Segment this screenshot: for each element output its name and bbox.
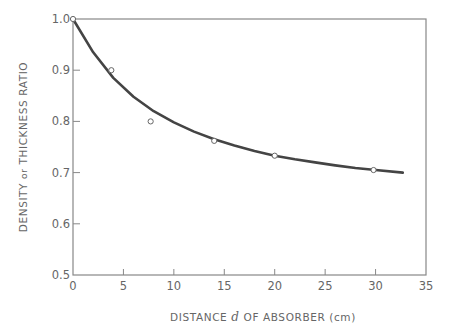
y-tick-label: 1.0	[52, 12, 70, 26]
x-tick-label: 35	[419, 279, 434, 293]
x-tick-label: 0	[69, 279, 76, 293]
chart: 05101520253035 0.50.60.70.80.91.0 DISTAN…	[0, 0, 449, 327]
x-tick-label: 5	[120, 279, 127, 293]
data-point-marker	[109, 68, 114, 73]
x-tick-label: 25	[318, 279, 333, 293]
fit-line	[73, 19, 403, 173]
y-axis-title: DENSITY or THICKNESS RATIO	[17, 62, 29, 232]
data-point-marker	[272, 153, 277, 158]
x-tick-label: 10	[167, 279, 182, 293]
data-points	[70, 16, 376, 172]
x-tick-label: 30	[368, 279, 383, 293]
plot-frame	[73, 19, 426, 275]
y-tick-label: 0.9	[52, 63, 70, 77]
x-tick-label: 15	[217, 279, 232, 293]
y-tick-label: 0.8	[52, 114, 70, 128]
y-tick-label: 0.5	[52, 268, 70, 282]
x-axis-ticks: 05101520253035	[69, 269, 433, 293]
y-tick-label: 0.6	[52, 217, 70, 231]
data-point-marker	[371, 167, 376, 172]
x-tick-label: 20	[267, 279, 282, 293]
x-axis-title: DISTANCE d OF ABSORBER (cm)	[170, 310, 356, 324]
data-point-marker	[212, 138, 217, 143]
data-point-marker	[148, 119, 153, 124]
fitted-curve	[73, 19, 403, 173]
plot-border	[73, 19, 426, 275]
y-tick-label: 0.7	[52, 166, 70, 180]
y-axis-ticks: 0.50.60.70.80.91.0	[52, 12, 80, 282]
data-point-marker	[70, 16, 75, 21]
